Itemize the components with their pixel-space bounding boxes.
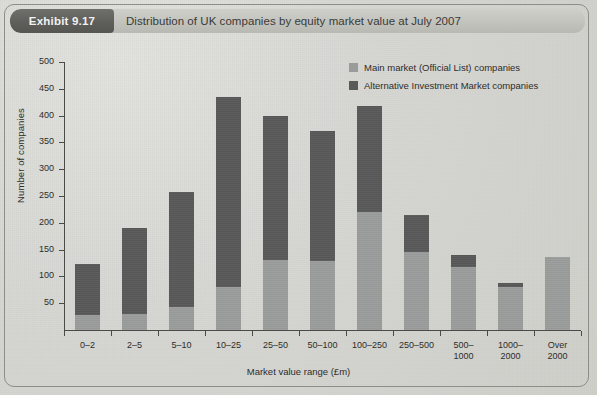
bar-segment-aim: [169, 192, 194, 307]
x-tick-4: [252, 331, 253, 336]
chart-legend: Main market (Official List) companies Al…: [349, 60, 538, 96]
legend-item-main: Main market (Official List) companies: [349, 60, 538, 75]
y-tick-label-400: 400: [28, 110, 54, 120]
bar-segment-main: [545, 257, 570, 330]
bar-10-25: [216, 97, 241, 330]
bar-segment-main: [169, 307, 194, 330]
bar-segment-aim: [263, 116, 288, 261]
bar-segment-aim: [451, 255, 476, 267]
y-tick-label-500: 500: [28, 56, 54, 66]
bar-segment-main: [451, 267, 476, 330]
bar-250-500: [404, 215, 429, 330]
y-tick-label-300: 300: [28, 163, 54, 173]
bar-segment-main: [263, 260, 288, 330]
bar-segment-aim: [310, 131, 335, 262]
x-tick-6: [346, 331, 347, 336]
x-tick-8: [440, 331, 441, 336]
bar-segment-main: [310, 261, 335, 330]
y-tick-350: [59, 142, 64, 143]
y-tick-450: [59, 89, 64, 90]
bar-segment-main: [404, 252, 429, 330]
bar-segment-main: [216, 287, 241, 330]
bar-segment-main: [498, 287, 523, 330]
y-tick-400: [59, 116, 64, 117]
legend-swatch-main-icon: [349, 63, 358, 72]
x-tick-7: [393, 331, 394, 336]
x-tick-11: [581, 331, 582, 336]
x-axis-line: [64, 330, 581, 331]
y-tick-label-100: 100: [28, 270, 54, 280]
x-tick-3: [205, 331, 206, 336]
bar-segment-aim: [216, 97, 241, 287]
y-tick-250: [59, 196, 64, 197]
y-tick-label-50: 50: [28, 297, 54, 307]
legend-swatch-aim-icon: [349, 81, 358, 90]
y-tick-200: [59, 223, 64, 224]
y-tick-label-200: 200: [28, 217, 54, 227]
bar-segment-main: [357, 212, 382, 330]
legend-label-main: Main market (Official List) companies: [364, 62, 520, 73]
y-axis-title: Number of companies: [15, 66, 26, 246]
x-label-over-2000: Over2000: [528, 340, 588, 361]
bar-5-10: [169, 192, 194, 330]
bar-0-2: [75, 264, 100, 330]
bar-100-250: [357, 106, 382, 330]
x-tick-0: [64, 331, 65, 336]
y-tick-500: [59, 62, 64, 63]
bar-segment-aim: [357, 106, 382, 212]
x-tick-5: [299, 331, 300, 336]
y-tick-100: [59, 276, 64, 277]
legend-item-aim: Alternative Investment Market companies: [349, 78, 538, 93]
bar-1000-2000: [498, 283, 523, 330]
bar-25-50: [263, 116, 288, 330]
x-tick-2: [158, 331, 159, 336]
x-tick-9: [487, 331, 488, 336]
y-tick-50: [59, 303, 64, 304]
x-tick-1: [111, 331, 112, 336]
y-tick-300: [59, 169, 64, 170]
bar-segment-main: [75, 315, 100, 330]
bar-segment-main: [122, 314, 147, 330]
y-tick-label-250: 250: [28, 190, 54, 200]
bar-segment-aim: [404, 215, 429, 253]
bar-over-2000: [545, 257, 570, 330]
x-tick-10: [534, 331, 535, 336]
chart-canvas: Number of companies 50100150200250300350…: [0, 0, 597, 395]
bar-500-1000: [451, 255, 476, 330]
y-tick-label-150: 150: [28, 244, 54, 254]
y-axis-line: [64, 62, 65, 331]
y-tick-150: [59, 250, 64, 251]
bar-2-5: [122, 228, 147, 330]
x-axis-title: Market value range (£m): [0, 366, 597, 377]
legend-label-aim: Alternative Investment Market companies: [364, 80, 538, 91]
bar-segment-aim: [122, 228, 147, 314]
y-tick-label-450: 450: [28, 83, 54, 93]
bar-50-100: [310, 131, 335, 330]
bar-segment-aim: [75, 264, 100, 315]
y-tick-label-350: 350: [28, 136, 54, 146]
